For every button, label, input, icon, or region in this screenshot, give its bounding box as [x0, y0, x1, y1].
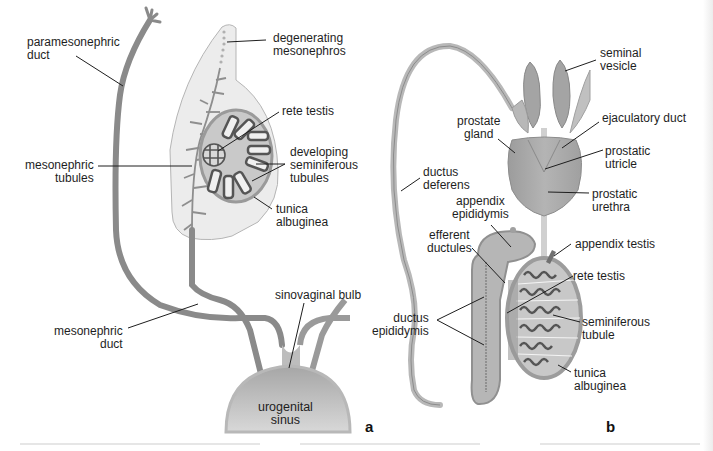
label-ductus-epididymis: ductus epididymis: [372, 312, 429, 338]
label-efferent-ductules: efferent ductules: [427, 229, 472, 255]
label-seminal-vesicle: seminal vesicle: [600, 47, 641, 73]
label-appendix-testis: appendix testis: [575, 238, 655, 251]
label-ductus-deferens: ductus deferens: [423, 166, 470, 192]
label-rete-testis-a: rete testis: [282, 105, 334, 118]
label-rete-testis-b: rete testis: [573, 270, 625, 283]
label-seminiferous-tubule: seminiferous tubule: [582, 316, 650, 342]
label-tunica-albuginea-b: tunica albuginea: [574, 367, 626, 393]
label-prostatic-utricle: prostatic utricle: [605, 145, 650, 171]
panel-b-drawing: [393, 46, 603, 405]
label-degenerating-mesonephros: degenerating mesonephros: [273, 32, 346, 58]
cut-off-caption-text: [0, 440, 713, 451]
panel-label-a: a: [365, 418, 373, 435]
label-paramesonephric-duct: paramesonephric duct: [27, 36, 120, 62]
panel-label-b: b: [606, 418, 615, 435]
label-prostatic-urethra: prostatic urethra: [592, 188, 637, 214]
label-sinovaginal-bulb: sinovaginal bulb: [275, 289, 361, 302]
label-developing-seminiferous-tubules: developing seminiferous tubules: [290, 146, 358, 185]
label-urogenital-sinus: urogenital sinus: [258, 401, 313, 427]
label-mesonephric-tubules: mesonephric tubules: [25, 159, 94, 185]
mesonephric-duct-path: [192, 230, 262, 378]
page-edge-shadow: [703, 0, 713, 451]
label-tunica-albuginea-a: tunica albuginea: [276, 203, 328, 229]
label-prostate-gland: prostate gland: [457, 115, 500, 141]
label-mesonephric-duct: mesonephric duct: [54, 325, 123, 351]
rete-testis-a: [203, 144, 225, 166]
prostate-gland: [508, 137, 582, 216]
label-appendix-epididymis: appendix epididymis: [452, 195, 509, 221]
label-ejaculatory-duct: ejaculatory duct: [602, 112, 686, 125]
